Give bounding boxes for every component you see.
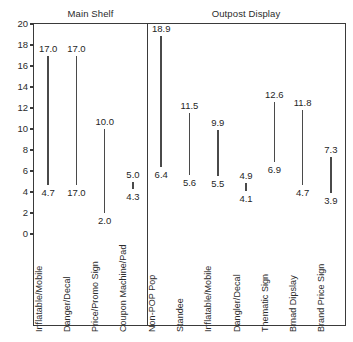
y-tick-mark-2	[30, 212, 34, 213]
y-tick-label-14: 14	[6, 81, 28, 92]
range-bar	[217, 130, 219, 176]
range-bar	[189, 113, 191, 175]
range-bar-lower-value: 4.3	[126, 191, 139, 202]
y-tick-mark-4	[30, 191, 34, 192]
range-bar	[160, 36, 162, 167]
y-tick-mark-10	[30, 128, 34, 129]
y-tick-label-18: 18	[6, 39, 28, 50]
range-bar	[76, 56, 78, 185]
y-tick-label-16: 16	[6, 60, 28, 71]
category-label: Standee	[175, 298, 185, 332]
range-bar-lower-value: 4.7	[296, 187, 309, 198]
category-label: Thematic Sign	[260, 274, 270, 332]
range-bar-lower-value: 6.9	[268, 164, 281, 175]
panel-title-2: Outpost Display	[147, 8, 345, 19]
y-tick-label-10: 10	[6, 123, 28, 134]
y-tick-label-12: 12	[6, 102, 28, 113]
range-bar-lower-value: 5.5	[211, 178, 224, 189]
range-bar-lower-value: 4.7	[42, 187, 55, 198]
range-bar-lower-value: 6.4	[155, 169, 168, 180]
category-label: Dangler/Decal	[232, 274, 242, 332]
category-label: Brand Price Sign	[316, 264, 326, 332]
y-tick-mark-0	[30, 233, 34, 234]
y-tick-mark-16	[30, 65, 34, 66]
y-tick-label-8: 8	[6, 144, 28, 155]
range-bar	[104, 129, 106, 213]
range-bar-lower-value: 2.0	[98, 215, 111, 226]
range-bar-upper-value: 4.9	[239, 170, 252, 181]
y-tick-label-4: 4	[6, 186, 28, 197]
category-label: Price/Promo Sign	[90, 261, 100, 332]
range-bar-upper-value: 9.9	[211, 117, 224, 128]
y-tick-mark-18	[30, 44, 34, 45]
y-tick-mark-6	[30, 170, 34, 171]
range-bar-upper-value: 11.5	[181, 100, 199, 111]
category-label: Inflatable/Mobile	[203, 266, 213, 332]
y-tick-mark-20	[30, 23, 34, 24]
range-bar-lower-value: 3.9	[324, 195, 337, 206]
y-tick-mark-14	[30, 86, 34, 87]
y-tick-label-20: 20	[6, 18, 28, 29]
y-tick-label-2: 2	[6, 207, 28, 218]
range-bar-lower-value: 4.1	[239, 193, 252, 204]
range-bar-lower-value: 5.6	[183, 177, 196, 188]
y-tick-label-6: 6	[6, 165, 28, 176]
range-bar-upper-value: 18.9	[152, 23, 171, 34]
panel-title-1: Main Shelf	[34, 8, 147, 19]
y-tick-label-0: 0	[6, 228, 28, 239]
category-label: Coupon Machine/Pad	[118, 245, 128, 332]
range-bar-upper-value: 7.3	[324, 144, 337, 155]
range-bar	[302, 110, 304, 185]
range-bar-upper-value: 17.0	[67, 43, 86, 54]
range-bar-upper-value: 17.0	[39, 43, 58, 54]
range-bar	[245, 183, 247, 191]
category-label: Danger/Decal	[62, 276, 72, 332]
category-label: Brnad Dipslay	[288, 275, 298, 332]
range-bar	[330, 157, 332, 193]
range-bar-upper-value: 11.8	[294, 97, 312, 108]
category-label: Inflatable/Mobile	[34, 266, 44, 332]
range-bar-lower-value: 17.0	[67, 187, 86, 198]
y-tick-mark-8	[30, 149, 34, 150]
range-bar-upper-value: 5.0	[126, 169, 139, 180]
range-bar	[132, 182, 134, 189]
range-bar	[274, 102, 276, 162]
category-label: Non-POP Pop	[147, 275, 157, 332]
range-bar	[47, 56, 49, 185]
y-tick-mark-12	[30, 107, 34, 108]
range-bar-upper-value: 10.0	[95, 116, 114, 127]
range-bar-chart: Main ShelfOutpost Display024681012141618…	[0, 0, 353, 342]
range-bar-upper-value: 12.6	[265, 89, 284, 100]
